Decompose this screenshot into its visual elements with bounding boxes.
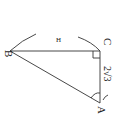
angle-mark-a	[91, 93, 100, 98]
arc-near-a	[103, 95, 108, 100]
arc-near-b	[10, 34, 36, 51]
arc-near-c	[78, 37, 100, 51]
label-a: A	[96, 106, 108, 114]
segment-ab	[10, 51, 100, 103]
label-ac-length: 2√3	[102, 66, 113, 82]
label-c: C	[102, 38, 114, 45]
label-h: H	[56, 36, 61, 44]
label-b: B	[3, 50, 15, 57]
triangle-diagram: B C A 2√3 H	[0, 0, 128, 128]
right-angle-mark-c	[93, 51, 100, 58]
